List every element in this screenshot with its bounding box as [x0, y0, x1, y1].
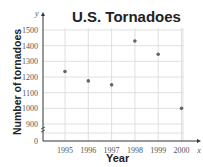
scatter-plot: 0900100011001200130014001500y19951996199… — [0, 0, 203, 167]
y-tick-label: 1400 — [22, 42, 38, 51]
y-tick-label: 1300 — [22, 57, 38, 66]
data-point — [156, 52, 160, 56]
x-tick-label: 1997 — [104, 146, 120, 155]
x-tick-label: 1995 — [57, 146, 73, 155]
x-axis-arrow-icon — [197, 139, 201, 143]
y-tick-label: 1500 — [22, 26, 38, 35]
y-axis-symbol: y — [34, 9, 39, 18]
y-axis-arrow-icon — [41, 12, 45, 16]
y-tick-label: 1000 — [22, 104, 38, 113]
x-tick-label: 1996 — [80, 146, 96, 155]
y-tick-label: 0 — [34, 137, 38, 146]
y-tick-label: 900 — [26, 120, 38, 129]
data-point — [63, 70, 67, 74]
y-tick-label: 1200 — [22, 73, 38, 82]
data-point — [133, 39, 137, 43]
data-point — [110, 83, 114, 87]
x-tick-label: 2000 — [174, 146, 190, 155]
data-point — [87, 79, 91, 83]
x-tick-label: 1999 — [150, 146, 166, 155]
x-tick-label: 1998 — [127, 146, 143, 155]
x-axis-symbol: x — [196, 146, 201, 155]
data-point — [180, 107, 184, 111]
y-tick-label: 1100 — [22, 89, 38, 98]
